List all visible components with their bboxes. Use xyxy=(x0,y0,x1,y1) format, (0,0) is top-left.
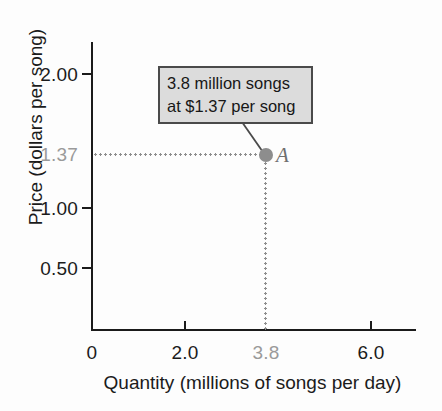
data-point-a-label: A xyxy=(276,143,289,168)
callout-line-1: 3.8 million songs xyxy=(167,72,304,95)
x-tick-6-0 xyxy=(370,321,372,330)
x-tick-label-3-8: 3.8 xyxy=(231,342,301,364)
x-tick-2-0 xyxy=(184,321,186,330)
chart-figure: 2.00 1.37 1.00 0.50 0 2.0 3.8 6.0 Price … xyxy=(0,0,442,411)
x-tick-label-6-0: 6.0 xyxy=(336,342,406,364)
y-axis-line xyxy=(91,42,93,331)
callout-line-2: at $1.37 per song xyxy=(167,95,304,118)
y-tick-1-00 xyxy=(82,207,92,209)
x-axis-title: Quantity (millions of songs per day) xyxy=(80,372,425,394)
x-tick-label-0: 0 xyxy=(57,342,127,364)
y-axis-title: Price (dollars per song) xyxy=(25,22,47,232)
x-axis-line xyxy=(91,329,416,331)
y-tick-2-00 xyxy=(82,73,92,75)
data-point-a xyxy=(259,148,273,162)
callout-box: 3.8 million songs at $1.37 per song xyxy=(158,66,313,124)
y-tick-label-0-50: 0.50 xyxy=(2,258,78,280)
vertical-guide-line xyxy=(264,156,267,330)
y-tick-0-50 xyxy=(82,267,92,269)
x-tick-label-2-0: 2.0 xyxy=(150,342,220,364)
